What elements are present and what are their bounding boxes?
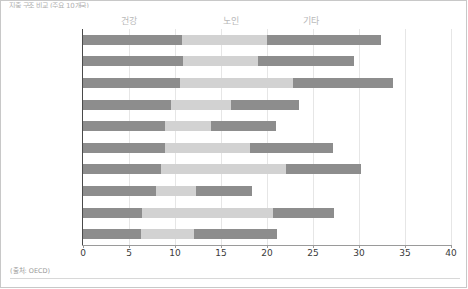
bar-segment-노인[interactable]	[171, 100, 231, 110]
bar-segment-건강[interactable]	[83, 208, 142, 218]
bar-row: 프랑스	[83, 72, 451, 94]
page-title: 지출 구조 비교 (주요 10개국)	[9, 0, 89, 8]
bar-segment-노인[interactable]	[161, 164, 286, 174]
tick-label-15: 15	[215, 248, 226, 258]
bar-segment-기타[interactable]	[286, 164, 361, 174]
footer-divider	[10, 278, 460, 279]
tick-label-0: 0	[80, 248, 86, 258]
tick-label-40: 40	[445, 248, 456, 258]
bar-row: 네덜란드	[83, 223, 451, 245]
bar-segment-건강[interactable]	[83, 143, 165, 153]
bar-segment-건강[interactable]	[83, 229, 141, 239]
tick-label-25: 25	[307, 248, 318, 258]
bar-segment-노인[interactable]	[183, 56, 258, 66]
bar-segment-노인[interactable]	[165, 121, 211, 131]
bar-segment-노인[interactable]	[182, 35, 267, 45]
bar-row: 오스트레일리아	[83, 115, 451, 137]
bar-segment-기타[interactable]	[196, 186, 252, 196]
bar-segment-건강[interactable]	[83, 186, 156, 196]
bar-segment-기타[interactable]	[267, 35, 381, 45]
stacked-bar[interactable]	[83, 35, 381, 45]
stacked-bar[interactable]	[83, 208, 334, 218]
bar-row: 이탈리아	[83, 159, 451, 181]
stacked-bar[interactable]	[83, 100, 299, 110]
bar-row: 스페인	[83, 137, 451, 159]
bar-segment-건강[interactable]	[83, 100, 171, 110]
bar-segment-노인[interactable]	[142, 208, 273, 218]
bar-segment-건강[interactable]	[83, 164, 161, 174]
stacked-bar[interactable]	[83, 56, 354, 66]
bar-segment-기타[interactable]	[258, 56, 355, 66]
stacked-bar[interactable]	[83, 121, 276, 131]
legend-item-other: 기타	[303, 14, 319, 27]
bar-row: 캐나다	[83, 180, 451, 202]
bar-segment-기타[interactable]	[211, 121, 276, 131]
stacked-bar[interactable]	[83, 164, 361, 174]
stacked-bar[interactable]	[83, 229, 277, 239]
bar-segment-기타[interactable]	[273, 208, 335, 218]
bar-segment-기타[interactable]	[293, 78, 393, 88]
bar-segment-노인[interactable]	[165, 143, 251, 153]
bar-segment-노인[interactable]	[156, 186, 196, 196]
bar-segment-기타[interactable]	[231, 100, 299, 110]
bar-segment-기타[interactable]	[194, 229, 277, 239]
bar-row: 벨기에	[83, 29, 451, 51]
legend: 건강 노인 기타	[1, 14, 468, 28]
bar-row: 영국	[83, 94, 451, 116]
tick-label-35: 35	[399, 248, 410, 258]
chart-frame: 지출 구조 비교 (주요 10개국) 건강 노인 기타 벨기에노르웨이프랑스영국…	[0, 0, 467, 288]
source-note: (출처: OECD)	[10, 265, 50, 275]
bar-segment-노인[interactable]	[180, 78, 293, 88]
bar-segment-건강[interactable]	[83, 35, 182, 45]
tick-label-20: 20	[261, 248, 272, 258]
stacked-bar[interactable]	[83, 78, 393, 88]
bar-segment-기타[interactable]	[250, 143, 333, 153]
stacked-bar[interactable]	[83, 143, 333, 153]
legend-item-elderly: 노인	[223, 14, 239, 27]
bar-segment-건강[interactable]	[83, 56, 183, 66]
plot-area: 벨기에노르웨이프랑스영국오스트레일리아스페인이탈리아캐나다그리스네덜란드 051…	[83, 29, 451, 245]
gridline-40	[451, 29, 452, 245]
legend-item-health: 건강	[121, 14, 137, 27]
tick-label-5: 5	[126, 248, 132, 258]
tick-label-10: 10	[169, 248, 180, 258]
bar-row: 그리스	[83, 202, 451, 224]
tick-label-30: 30	[353, 248, 364, 258]
bar-segment-건강[interactable]	[83, 78, 180, 88]
bar-row: 노르웨이	[83, 51, 451, 73]
bar-segment-노인[interactable]	[141, 229, 194, 239]
stacked-bar[interactable]	[83, 186, 252, 196]
bar-segment-건강[interactable]	[83, 121, 165, 131]
